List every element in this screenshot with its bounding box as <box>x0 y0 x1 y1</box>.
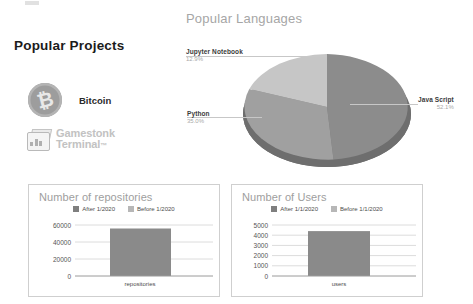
pie-callout-javascript-value: 52.1% <box>418 104 454 110</box>
legend-label-before-users: Before 1/1/2020 <box>340 206 383 212</box>
svg-text:20000: 20000 <box>53 256 71 263</box>
svg-text:3000: 3000 <box>254 242 269 249</box>
legend-swatch-after-icon <box>73 206 79 212</box>
svg-text:0: 0 <box>264 273 268 280</box>
pie-callout-javascript: Java Script 52.1% <box>418 96 454 110</box>
bar-glyph-1-icon <box>30 142 33 146</box>
svg-text:repositories: repositories <box>124 281 155 287</box>
pie-callout-jupyter-value: 12.9% <box>186 56 243 62</box>
project-label-gamestonk-terminal: Gamestonk Terminal™ <box>56 128 115 150</box>
legend-repositories: After 1/2020 Before 1/2020 <box>29 206 219 212</box>
legend-item-before-users[interactable]: Before 1/1/2020 <box>331 206 383 212</box>
legend-label-after-users: After 1/1/2020 <box>280 206 318 212</box>
bar-repositories-after <box>110 229 171 277</box>
pie-callout-jupyter: Jupyter Notebook 12.9% <box>186 48 243 62</box>
leader-line-javascript <box>350 104 418 105</box>
svg-text:4000: 4000 <box>254 232 269 239</box>
legend-swatch-after-icon <box>271 206 277 212</box>
pie-callout-jupyter-name: Jupyter Notebook <box>186 48 243 55</box>
project-item-bitcoin[interactable]: ₿ Bitcoin <box>28 83 111 117</box>
pie-callout-javascript-name: Java Script <box>418 96 454 103</box>
legend-label-after: After 1/2020 <box>82 206 115 212</box>
gamestonk-terminal-logo-icon <box>26 129 50 150</box>
bar-glyph-3-icon <box>39 141 42 146</box>
bar-users-after <box>308 231 370 276</box>
languages-pie-chart <box>237 46 417 168</box>
slide-canvas: Popular Projects ₿ Bitcoin Gamestonk Ter… <box>0 0 473 304</box>
pie-callout-python-value: 35.0% <box>187 118 210 124</box>
plot-svg-repositories: 60000 40000 20000 0 repositories <box>29 218 221 290</box>
gamestonk-line-2: Terminal <box>56 138 100 150</box>
chart-title-repositories: Number of repositories <box>39 191 152 203</box>
legend-swatch-before-icon <box>128 206 134 212</box>
bitcoin-symbol-icon: ₿ <box>35 88 56 111</box>
legend-item-after[interactable]: After 1/2020 <box>73 206 115 212</box>
legend-item-before[interactable]: Before 1/2020 <box>128 206 175 212</box>
bar-glyph-2-icon <box>35 139 38 146</box>
bitcoin-logo-icon: ₿ <box>28 83 62 117</box>
svg-text:40000: 40000 <box>53 239 71 246</box>
legend-users: After 1/1/2020 Before 1/1/2020 <box>232 206 422 212</box>
trademark-icon: ™ <box>100 142 107 149</box>
pie-svg <box>237 46 417 168</box>
svg-text:2000: 2000 <box>254 252 269 259</box>
popular-languages-title: Popular Languages <box>186 11 302 26</box>
legend-label-before: Before 1/2020 <box>137 206 175 212</box>
card-number-of-repositories: Number of repositories After 1/2020 Befo… <box>28 184 220 297</box>
card-number-of-users: Number of Users After 1/1/2020 Before 1/… <box>231 184 423 297</box>
svg-text:60000: 60000 <box>53 222 71 229</box>
plot-svg-users: 5000 4000 3000 2000 1000 0 users <box>232 218 424 290</box>
project-item-gamestonk-terminal[interactable]: Gamestonk Terminal™ <box>26 128 115 150</box>
plot-repositories: 60000 40000 20000 0 repositories <box>29 218 219 290</box>
chart-title-users: Number of Users <box>242 191 327 203</box>
plot-users: 5000 4000 3000 2000 1000 0 users <box>232 218 422 290</box>
pie-callout-python-name: Python <box>187 110 210 117</box>
svg-text:1000: 1000 <box>254 262 269 269</box>
svg-text:users: users <box>332 281 347 287</box>
legend-swatch-before-icon <box>331 206 337 212</box>
popular-projects-heading: Popular Projects <box>14 38 124 53</box>
legend-item-after-users[interactable]: After 1/1/2020 <box>271 206 318 212</box>
svg-text:0: 0 <box>67 273 71 280</box>
gamestonk-line-1: Gamestonk <box>56 127 115 139</box>
project-label-bitcoin: Bitcoin <box>79 95 111 106</box>
svg-text:5000: 5000 <box>254 222 269 229</box>
pie-callout-python: Python 35.0% <box>187 110 210 124</box>
top-edge-artifact <box>25 1 39 5</box>
